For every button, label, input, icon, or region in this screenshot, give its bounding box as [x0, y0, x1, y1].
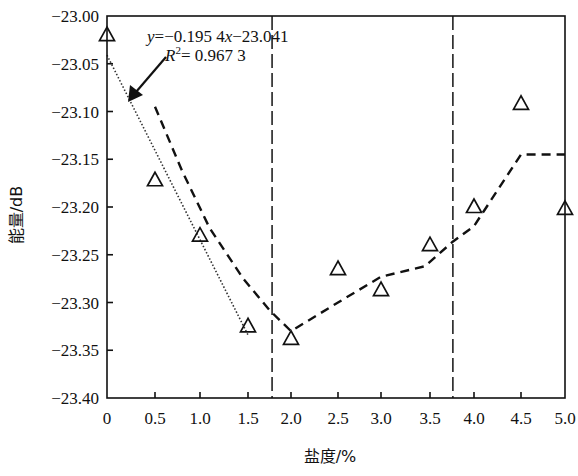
- dashed-trend-line: [155, 107, 565, 331]
- triangle-marker-icon: [423, 237, 438, 251]
- x-tick-label: 4.5: [510, 409, 531, 428]
- triangle-marker-icon: [514, 96, 529, 110]
- y-tick-label: −23.40: [51, 389, 99, 408]
- y-axis-title: 能量/dB: [7, 186, 26, 245]
- y-tick-label: −23.25: [51, 246, 99, 265]
- triangle-marker-icon: [467, 199, 482, 213]
- y-tick-label: −23.20: [51, 198, 99, 217]
- y-tick-label: −23.00: [51, 7, 99, 26]
- x-tick-label: 1.5: [237, 409, 258, 428]
- x-tick-label: 2.5: [327, 409, 348, 428]
- triangle-marker-icon: [148, 172, 163, 186]
- x-tick-label: 3.5: [419, 409, 440, 428]
- triangle-marker-icon: [193, 228, 208, 242]
- trend-line: [155, 107, 565, 331]
- y-tick-label: −23.30: [51, 294, 99, 313]
- y-axis-ticks: −23.00−23.05−23.10−23.15−23.20−23.25−23.…: [51, 7, 113, 408]
- x-tick-label: 1.0: [189, 409, 210, 428]
- vertical-divider-lines: [272, 16, 453, 398]
- linear-fit-line: [107, 55, 248, 335]
- chart: 00.51.01.52.02.53.03.54.04.55.0 −23.00−2…: [0, 0, 578, 476]
- x-axis-title: 盐度/%: [304, 447, 357, 466]
- arrow-icon: [128, 57, 166, 102]
- y-tick-label: −23.35: [51, 341, 99, 360]
- r-squared-label: R2= 0.967 3: [164, 44, 246, 65]
- y-tick-label: −23.10: [51, 103, 99, 122]
- x-tick-label: 0: [103, 409, 112, 428]
- regression-equation: y=−0.195 4x−23.041: [145, 27, 289, 46]
- fit-line: [107, 55, 248, 335]
- triangle-marker-icon: [374, 282, 389, 296]
- x-tick-label: 2.0: [280, 409, 301, 428]
- y-tick-label: −23.05: [51, 55, 99, 74]
- x-tick-label: 4.0: [463, 409, 484, 428]
- triangle-marker-icon: [284, 331, 299, 345]
- y-tick-label: −23.15: [51, 150, 99, 169]
- plot-frame: [107, 16, 565, 398]
- triangle-marker-icon: [331, 261, 346, 275]
- x-tick-label: 3.0: [370, 409, 391, 428]
- x-tick-label: 5.0: [554, 409, 575, 428]
- x-tick-label: 0.5: [144, 409, 165, 428]
